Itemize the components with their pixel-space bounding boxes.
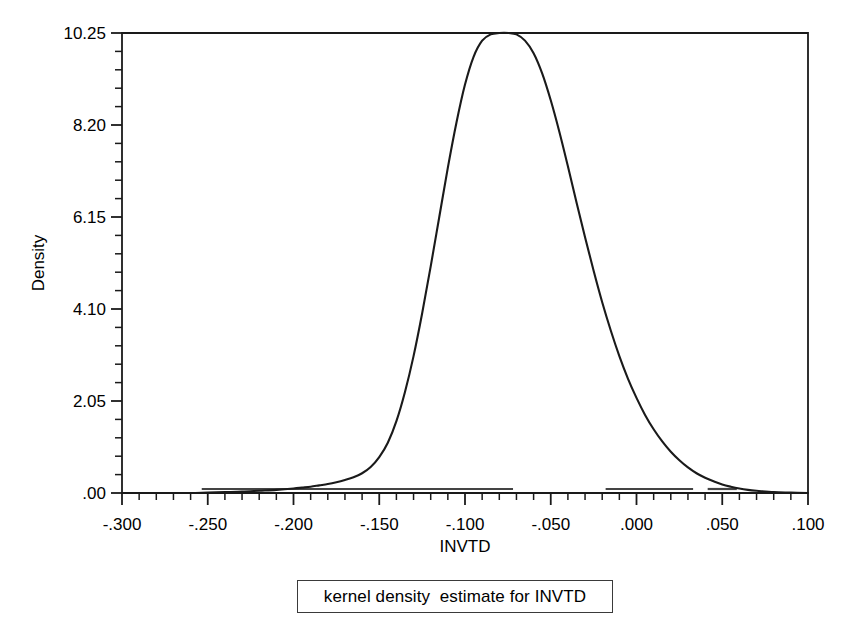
x-tick-label: -.200 [274, 515, 313, 534]
y-axis-title: Density [29, 234, 48, 291]
plot-frame [122, 33, 808, 493]
y-axis-ticks [111, 33, 122, 493]
x-tick-label: -.050 [531, 515, 570, 534]
x-tick-label: .050 [706, 515, 739, 534]
x-tick-label: .000 [620, 515, 653, 534]
y-tick-label: 2.05 [73, 392, 106, 411]
caption-box: kernel density estimate for INVTD [297, 580, 613, 613]
x-axis-ticks [122, 493, 808, 505]
y-tick-label: 4.10 [73, 300, 106, 319]
x-tick-label: -.250 [188, 515, 227, 534]
x-tick-label: .100 [791, 515, 824, 534]
y-tick-label: 10.25 [63, 24, 106, 43]
caption-label: kernel density estimate for INVTD [324, 587, 586, 607]
y-tick-label: .00 [82, 484, 106, 503]
density-plot-svg: .002.054.106.158.2010.25 -.300-.250-.200… [0, 0, 860, 643]
x-tick-label: -.150 [360, 515, 399, 534]
y-tick-label: 6.15 [73, 208, 106, 227]
x-tick-label: -.300 [103, 515, 142, 534]
x-axis-tick-labels: -.300-.250-.200-.150-.100-.050.000.050.1… [103, 515, 825, 534]
kernel-density-figure: .002.054.106.158.2010.25 -.300-.250-.200… [0, 0, 860, 643]
x-axis-title: INVTD [440, 537, 491, 556]
y-tick-label: 8.20 [73, 116, 106, 135]
y-axis-tick-labels: .002.054.106.158.2010.25 [63, 24, 106, 503]
density-curve [122, 33, 808, 493]
x-tick-label: -.100 [446, 515, 485, 534]
